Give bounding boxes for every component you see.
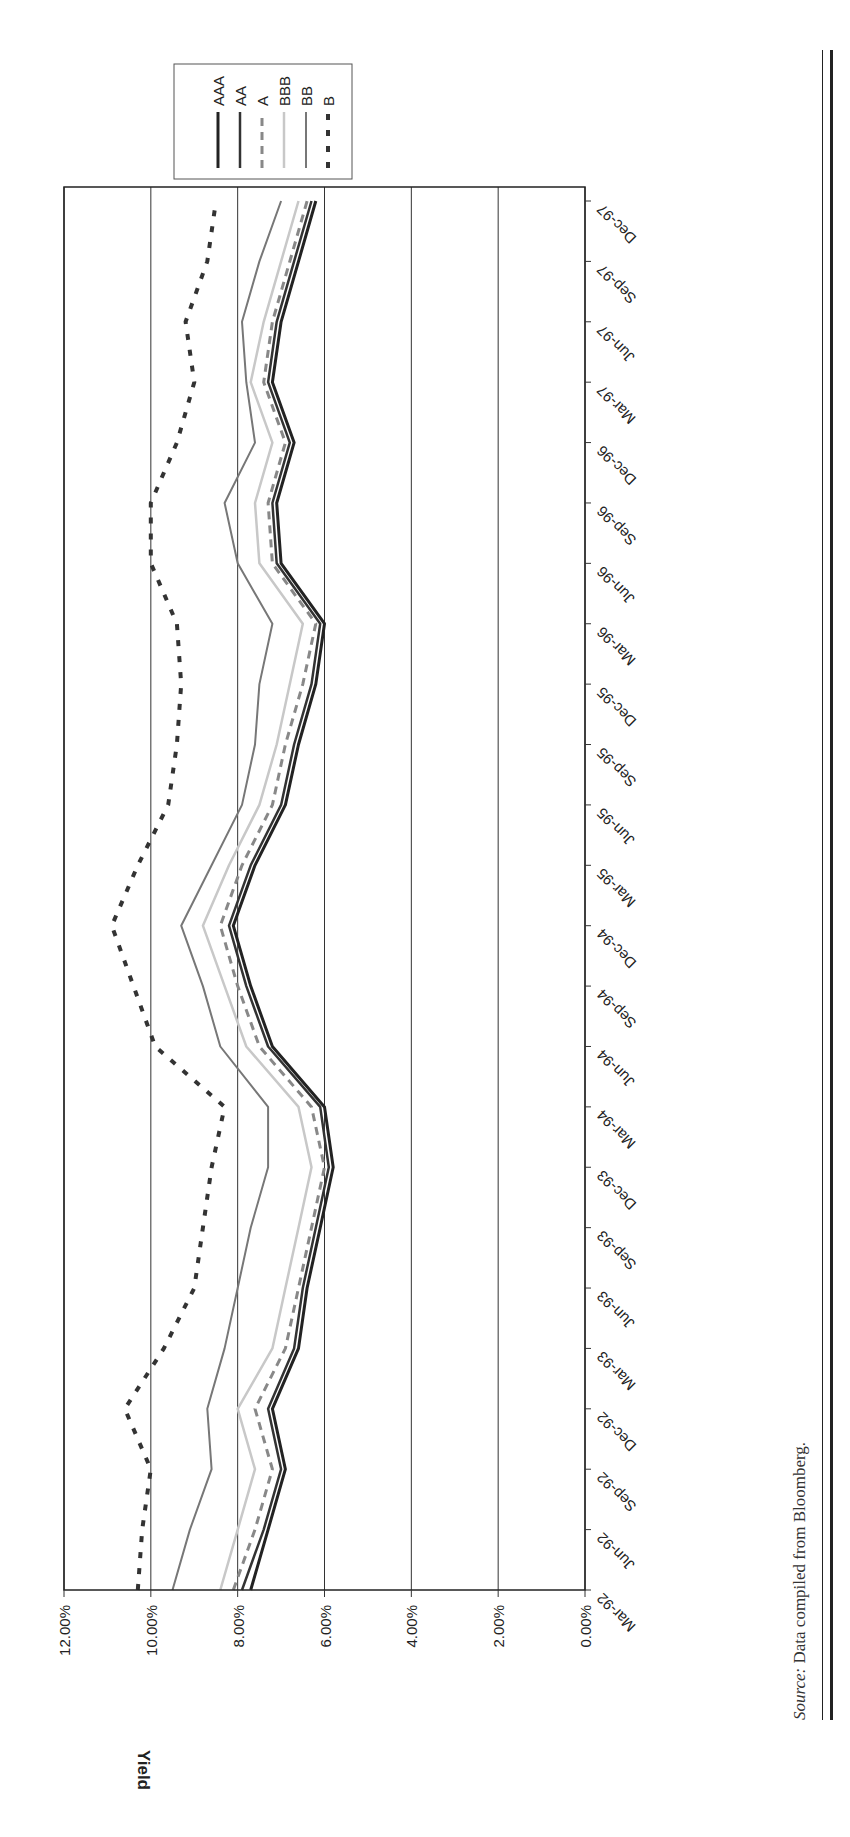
series-line-a (220, 201, 324, 1590)
y-tick-label: 10.00% (143, 1605, 160, 1656)
y-tick-label: 8.00% (230, 1605, 247, 1648)
x-tick-label: Mar-94 (593, 1107, 639, 1153)
bottom-rule-thick (830, 50, 833, 1720)
bottom-rule-thin (822, 50, 823, 1720)
y-tick-label: 4.00% (403, 1605, 420, 1648)
x-tick-label: Sep-97 (593, 261, 639, 307)
x-tick-label: Dec-97 (593, 201, 639, 247)
yield-chart: 0.00%2.00%4.00%6.00%8.00%10.00%12.00% Ma… (0, 0, 850, 1837)
x-tick-label: Sep-94 (593, 986, 639, 1032)
series-line-bbb (203, 201, 312, 1590)
y-tick-label: 12.00% (56, 1605, 73, 1656)
series-line-aaa (233, 201, 333, 1590)
x-tick-label: Mar-92 (593, 1590, 639, 1636)
legend-label-bb: BB (298, 86, 315, 106)
x-tick-label: Jun-92 (593, 1529, 637, 1573)
y-axis-ticks: 0.00%2.00%4.00%6.00%8.00%10.00%12.00% (56, 1590, 594, 1656)
x-tick-label: Dec-96 (593, 442, 639, 488)
x-tick-label: Mar-93 (593, 1348, 639, 1394)
y-tick-label: 0.00% (577, 1605, 594, 1648)
x-tick-label: Mar-97 (593, 382, 639, 428)
x-tick-label: Jun-94 (593, 1046, 637, 1090)
y-tick-label: 6.00% (317, 1605, 334, 1648)
legend-label-aaa: AAA (210, 76, 227, 106)
y-axis-title: Yield (134, 1750, 153, 1790)
x-tick-label: Dec-92 (593, 1409, 639, 1455)
chart-gridlines (64, 187, 585, 1590)
x-tick-label: Jun-93 (593, 1288, 637, 1332)
series-line-bb (173, 201, 282, 1590)
legend-label-b: B (320, 96, 337, 106)
x-tick-label: Sep-96 (593, 503, 639, 549)
x-tick-label: Dec-93 (593, 1167, 639, 1213)
source-text: Data compiled from Bloomberg. (790, 1442, 809, 1664)
series-line-b (112, 201, 225, 1590)
y-tick-label: 2.00% (490, 1605, 507, 1648)
x-tick-label: Dec-94 (593, 926, 639, 972)
legend-label-a: A (254, 96, 271, 106)
x-tick-label: Mar-96 (593, 624, 639, 670)
x-tick-label: Sep-95 (593, 744, 639, 790)
legend-label-bbb: BBB (276, 76, 293, 106)
x-tick-label: Jun-97 (593, 322, 637, 366)
legend-label-aa: AA (232, 86, 249, 106)
x-tick-label: Sep-93 (593, 1228, 639, 1274)
x-axis-ticks: Mar-92Jun-92Sep-92Dec-92Mar-93Jun-93Sep-… (585, 201, 639, 1636)
x-tick-label: Jun-96 (593, 563, 637, 607)
source-label: Source: (790, 1668, 809, 1720)
legend: AAAAAABBBBBB (174, 64, 352, 179)
x-tick-label: Mar-95 (593, 865, 639, 911)
chart-series (112, 201, 333, 1590)
source-note: Source: Data compiled from Bloomberg. (790, 1442, 810, 1720)
x-tick-label: Jun-95 (593, 805, 637, 849)
x-tick-label: Dec-95 (593, 684, 639, 730)
x-tick-label: Sep-92 (593, 1469, 639, 1515)
